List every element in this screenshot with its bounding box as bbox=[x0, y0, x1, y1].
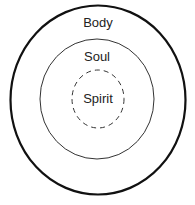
spirit-label: Spirit bbox=[83, 91, 113, 106]
body-soul-spirit-diagram: Body Soul Spirit bbox=[0, 0, 195, 205]
soul-label: Soul bbox=[84, 49, 110, 64]
body-label: Body bbox=[83, 15, 113, 30]
